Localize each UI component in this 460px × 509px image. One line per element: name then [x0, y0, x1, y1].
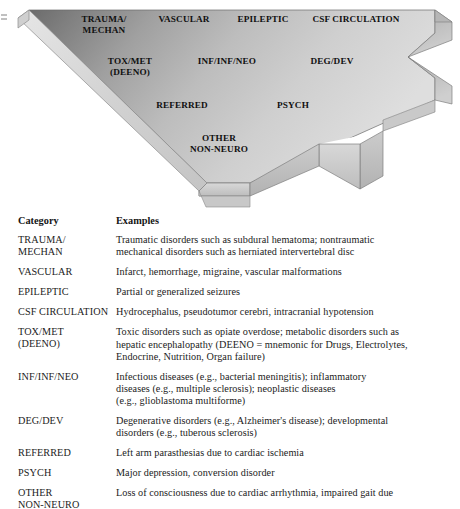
diagram-label-other-non-neuro: OTHER NON-NEURO	[172, 133, 266, 155]
diagram-label-psych: PSYCH	[264, 100, 322, 111]
table-cell-examples: Infectious diseases (e.g., bacterial men…	[116, 371, 460, 407]
table-cell-category: OTHER NON-NEURO	[0, 487, 116, 509]
table-row: INF/INF/NEOInfectious diseases (e.g., ba…	[0, 371, 460, 407]
diagram-label-inf-inf-neo: INF/INF/NEO	[184, 56, 270, 67]
table-row: OTHER NON-NEUROLoss of consciousness due…	[0, 487, 460, 509]
table-cell-examples: Infarct, hemorrhage, migraine, vascular …	[116, 266, 460, 278]
table-cell-category: TRAUMA/ MECHAN	[0, 234, 116, 258]
table-row: PSYCHMajor depression, conversion disord…	[0, 467, 460, 479]
table-cell-category: INF/INF/NEO	[0, 371, 116, 383]
diagram-label-vascular: VASCULAR	[146, 14, 222, 25]
table-cell-examples: Toxic disorders such as opiate overdose;…	[116, 326, 460, 362]
table-cell-category: CSF CIRCULATION	[0, 306, 116, 318]
table-cell-category: DEG/DEV	[0, 415, 116, 427]
table-body: TRAUMA/ MECHANTraumatic disorders such a…	[0, 234, 460, 509]
diagram-figure: TRAUMA/ MECHAN VASCULAR EPILEPTIC CSF CI…	[0, 0, 460, 212]
table-header-row: Category Examples	[0, 214, 460, 227]
table-cell-examples: Degenerative disorders (e.g., Alzheimer'…	[116, 415, 460, 439]
table-cell-category: REFERRED	[0, 447, 116, 459]
table-row: DEG/DEVDegenerative disorders (e.g., Alz…	[0, 415, 460, 439]
table-row: TOX/MET (DEENO)Toxic disorders such as o…	[0, 326, 460, 362]
table-cell-category: EPILEPTIC	[0, 286, 116, 298]
diagram-label-csf-circulation: CSF CIRCULATION	[300, 14, 412, 25]
column-header-category: Category	[0, 214, 116, 227]
table-row: REFERREDLeft arm parasthesias due to car…	[0, 447, 460, 459]
table-cell-examples: Loss of consciousness due to cardiac arr…	[116, 487, 460, 499]
diagram-label-epileptic: EPILEPTIC	[228, 14, 298, 25]
diagram-label-tox-met-deeno: TOX/MET (DEENO)	[90, 56, 170, 78]
table-cell-category: PSYCH	[0, 467, 116, 479]
table-cell-examples: Major depression, conversion disorder	[116, 467, 460, 479]
table-cell-examples: Left arm parasthesias due to cardiac isc…	[116, 447, 460, 459]
table-row: EPILEPTICPartial or generalized seizures	[0, 286, 460, 298]
diagram-label-referred: REFERRED	[142, 100, 222, 111]
column-header-examples: Examples	[116, 214, 460, 227]
table-cell-category: TOX/MET (DEENO)	[0, 326, 116, 350]
table-cell-category: VASCULAR	[0, 266, 116, 278]
table-row: VASCULARInfarct, hemorrhage, migraine, v…	[0, 266, 460, 278]
table-cell-examples: Hydrocephalus, pseudotumor cerebri, intr…	[116, 306, 460, 318]
category-examples-table: Category Examples TRAUMA/ MECHANTraumati…	[0, 214, 460, 509]
table-row: CSF CIRCULATIONHydrocephalus, pseudotumo…	[0, 306, 460, 318]
table-cell-examples: Partial or generalized seizures	[116, 286, 460, 298]
table-row: TRAUMA/ MECHANTraumatic disorders such a…	[0, 234, 460, 258]
table-cell-examples: Traumatic disorders such as subdural hem…	[116, 234, 460, 258]
diagram-label-deg-dev: DEG/DEV	[296, 56, 368, 67]
diagram-label-trauma-mechan: TRAUMA/ MECHAN	[62, 14, 146, 36]
